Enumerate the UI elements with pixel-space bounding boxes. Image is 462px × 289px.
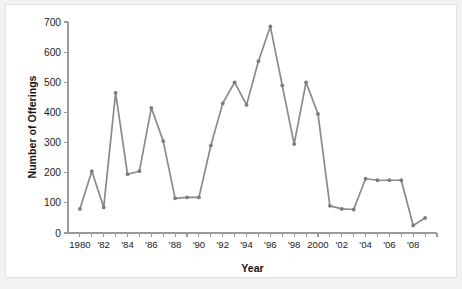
data-point [387,178,391,182]
series-polyline [80,27,425,226]
data-point [328,204,332,208]
x-axis: 1980'82'84'86'88'90'92'94'96'982000'02'0… [68,233,437,250]
chart-panel: 0100200300400500600700 1980'82'84'86'88'… [5,4,457,278]
data-point [292,142,296,146]
y-axis: 0100200300400500600700 [44,17,68,239]
figure-root: 0100200300400500600700 1980'82'84'86'88'… [0,0,462,289]
data-point [399,178,403,182]
data-point [78,207,82,211]
data-point [364,177,368,181]
x-tick-label: '98 [288,239,301,250]
data-point [340,207,344,211]
data-point [316,112,320,116]
data-point [138,169,142,173]
x-tick-label: 2000 [307,239,328,250]
data-point [411,224,415,228]
y-tick-label: 300 [44,137,61,148]
data-point [304,80,308,84]
x-tick-label: '94 [240,239,253,250]
data-point [114,91,118,95]
data-point [376,178,380,182]
data-point [221,101,225,105]
data-point [352,208,356,212]
y-tick-label: 500 [44,77,61,88]
data-point [268,25,272,29]
data-point [233,80,237,84]
y-tick-label: 400 [44,107,61,118]
x-tick-label: '96 [264,239,277,250]
x-axis-title: Year [241,262,263,274]
data-point [257,59,261,63]
data-point [161,139,165,143]
data-series-offerings [78,25,427,228]
x-tick-label: 1980 [69,239,90,250]
data-point [90,169,94,173]
data-point [209,144,213,148]
data-point [280,83,284,87]
x-tick-label: '04 [359,239,372,250]
data-point [102,205,106,209]
data-point [185,196,189,200]
line-chart: 0100200300400500600700 1980'82'84'86'88'… [6,5,457,278]
x-tick-label: '84 [121,239,134,250]
data-point [126,172,130,176]
data-point [423,216,427,220]
data-point [173,196,177,200]
y-tick-label: 0 [55,228,61,239]
y-axis-title: Number of Offerings [26,75,38,178]
x-tick-label: '90 [193,239,206,250]
y-tick-label: 600 [44,47,61,58]
y-tick-label: 100 [44,197,61,208]
x-tick-label: '82 [97,239,110,250]
data-point [197,196,201,200]
x-tick-label: '06 [383,239,396,250]
x-tick-label: '92 [216,239,229,250]
data-point [245,103,249,107]
x-tick-label: '02 [336,239,349,250]
y-tick-label: 700 [44,17,61,28]
x-tick-label: '86 [145,239,158,250]
y-tick-label: 200 [44,167,61,178]
x-tick-label: '08 [407,239,420,250]
x-tick-label: '88 [169,239,182,250]
data-point [149,106,153,110]
